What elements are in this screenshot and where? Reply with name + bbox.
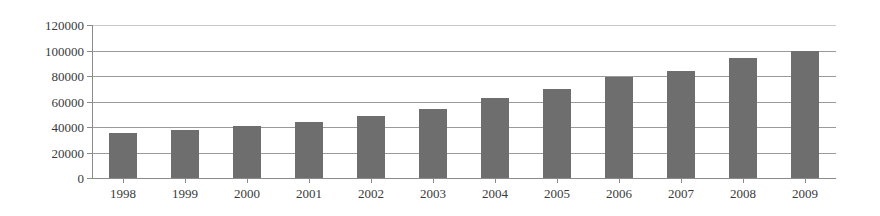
gridline-60000 [92,102,836,103]
x-axis-label-2004: 2004 [464,187,526,200]
bar-2003 [419,109,447,178]
x-axis-label-2003: 2003 [402,187,464,200]
x-tick-2000 [247,178,248,183]
y-axis-label: 120000 [4,19,84,32]
bar-2009 [791,51,819,179]
x-tick-2006 [619,178,620,183]
bar-2004 [481,98,509,178]
bar-2008 [729,58,757,178]
bar-2006 [605,77,633,178]
x-tick-2001 [309,178,310,183]
y-axis-label: 20000 [4,146,84,159]
y-axis-label: 100000 [4,44,84,57]
bar-2005 [543,89,571,178]
bar-1998 [109,133,137,178]
y-tick-100000 [87,51,92,52]
x-tick-2009 [805,178,806,183]
x-axis-label-2009: 2009 [774,187,836,200]
y-axis-label: 80000 [4,70,84,83]
y-axis-label: 60000 [4,95,84,108]
x-axis-label-2005: 2005 [526,187,588,200]
y-tick-20000 [87,153,92,154]
bar-2002 [357,116,385,178]
x-axis-label-2001: 2001 [278,187,340,200]
y-tick-40000 [87,127,92,128]
y-tick-80000 [87,76,92,77]
x-tick-2004 [495,178,496,183]
y-tick-0 [87,178,92,179]
x-axis-label-2008: 2008 [712,187,774,200]
x-tick-2005 [557,178,558,183]
x-tick-2007 [681,178,682,183]
gridline-120000 [92,25,836,26]
gridline-100000 [92,51,836,52]
y-axis-label: 40000 [4,121,84,134]
x-tick-1999 [185,178,186,183]
bar-2000 [233,126,261,178]
bar-2007 [667,71,695,178]
x-tick-2008 [743,178,744,183]
gridline-80000 [92,76,836,77]
x-axis-label-2000: 2000 [216,187,278,200]
plot-area [92,25,836,178]
y-tick-60000 [87,102,92,103]
y-tick-120000 [87,25,92,26]
gridline-0 [92,178,836,179]
x-axis-label-1999: 1999 [154,187,216,200]
x-tick-2002 [371,178,372,183]
x-tick-2003 [433,178,434,183]
bar-2001 [295,122,323,178]
y-axis-labels: 020000400006000080000100000120000 [0,0,84,216]
x-tick-1998 [123,178,124,183]
bar-1999 [171,130,199,178]
x-axis-label-2006: 2006 [588,187,650,200]
gridline-20000 [92,153,836,154]
bar-chart: 020000400006000080000100000120000 199819… [0,0,880,216]
x-axis-label-2007: 2007 [650,187,712,200]
gridline-40000 [92,127,836,128]
x-axis-label-2002: 2002 [340,187,402,200]
y-axis-line [92,25,93,179]
y-axis-label: 0 [4,172,84,185]
x-axis-label-1998: 1998 [92,187,154,200]
